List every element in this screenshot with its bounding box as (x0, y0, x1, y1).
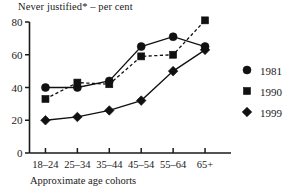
x-axis-tick-label: 55–64 (160, 159, 187, 170)
data-point-1981-18–24 (41, 84, 49, 92)
legend-label-1999: 1999 (260, 107, 283, 119)
series-marker-group (41, 17, 210, 125)
x-axis-tick-label: 45–54 (128, 159, 155, 170)
chart-legend: 198119901999 (242, 65, 282, 119)
series-line-1981 (45, 37, 205, 88)
series-line-1999 (45, 50, 205, 120)
data-point-1990-25–34 (74, 79, 81, 86)
x-axis-title: Approximate age cohorts (30, 175, 136, 186)
data-point-1990-18–24 (42, 95, 49, 102)
legend-marker-1990 (244, 88, 251, 95)
x-axis-tick-group: 18–2425–3435–4445–5455–6465+ (32, 148, 213, 170)
legend-marker-1981 (243, 66, 251, 74)
data-point-1999-25–34 (73, 112, 83, 122)
series-line-group (45, 20, 205, 120)
chart-plot-area: 020406080 18–2425–3435–4445–5455–6465+ 1… (0, 0, 304, 191)
chart-title: Never justified* – per cent (18, 1, 133, 12)
data-point-1981-45–54 (137, 43, 145, 51)
x-axis-tick-label: 65+ (197, 159, 214, 170)
data-point-1999-18–24 (41, 115, 51, 125)
y-axis-tick-label: 60 (12, 49, 24, 61)
data-point-1981-55–64 (169, 33, 177, 41)
data-point-1999-35–44 (104, 106, 114, 116)
x-axis-tick-label: 18–24 (32, 159, 59, 170)
legend-label-1981: 1981 (260, 65, 282, 77)
y-axis-tick-label: 80 (12, 16, 24, 28)
data-point-1990-35–44 (106, 81, 113, 88)
legend-label-1990: 1990 (260, 86, 283, 98)
legend-marker-1999 (242, 107, 252, 117)
y-axis-tick-label: 40 (12, 82, 24, 94)
data-point-1990-65+ (202, 17, 209, 24)
y-axis-tick-group: 020406080 (12, 16, 30, 159)
y-axis-tick-label: 0 (17, 147, 23, 159)
y-axis-tick-label: 20 (12, 114, 24, 126)
data-point-1990-45–54 (138, 53, 145, 60)
x-axis-tick-label: 25–34 (64, 159, 91, 170)
data-point-1990-55–64 (170, 51, 177, 58)
chart-container: Never justified* – per cent 020406080 18… (0, 0, 304, 191)
x-axis-tick-label: 35–44 (96, 159, 123, 170)
